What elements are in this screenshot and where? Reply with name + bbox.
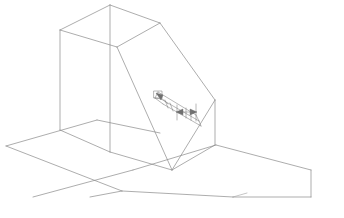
wireframe-svg — [0, 0, 344, 218]
technical-drawing-canvas — [0, 0, 344, 218]
block-left-face-fill — [60, 5, 110, 152]
